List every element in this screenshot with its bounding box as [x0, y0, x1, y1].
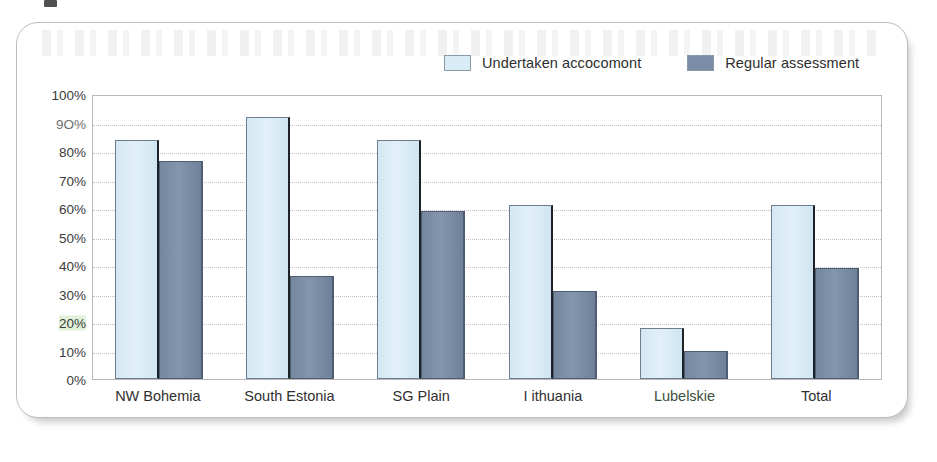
legend-label-series-2: Regular assessment	[725, 55, 859, 71]
bar-group	[618, 96, 749, 379]
x-axis-tick-label: NW Bohemia	[92, 388, 224, 410]
bar-series-2	[290, 276, 334, 379]
bar-group	[224, 96, 355, 379]
y-axis-tick-label: 100%	[51, 88, 86, 103]
bar-series-1	[246, 117, 290, 379]
y-axis-tick-label: 0%	[66, 373, 86, 388]
bar-series-1	[509, 205, 553, 379]
y-axis-tick-label: 80%	[59, 145, 86, 160]
bar-series-1	[640, 328, 684, 379]
y-axis-tick-label: 60%	[59, 202, 86, 217]
legend-label-series-1: Undertaken accocomont	[482, 55, 641, 71]
x-axis-tick-label: SG Plain	[355, 388, 487, 410]
x-axis-tick-label: Lubelskie	[619, 388, 751, 410]
bar-group	[750, 96, 881, 379]
y-axis-tick-label: 9O%	[56, 116, 86, 131]
legend-item-regular-assessment: Regular assessment	[687, 55, 859, 71]
chart-page: Undertaken accocomont Regular assessment…	[0, 0, 937, 462]
bar-group	[356, 96, 487, 379]
bar-series-1	[771, 205, 815, 379]
legend-swatch-icon-light	[444, 55, 471, 71]
plot-area	[92, 95, 882, 380]
bar-series-2	[421, 211, 465, 379]
x-axis-tick-label: South Estonia	[224, 388, 356, 410]
y-axis-tick-label: 30%	[59, 287, 86, 302]
bar-series-2	[159, 161, 203, 379]
y-axis-tick-labels: 100%9O%80%70%60%50%40%30%20%10%0%	[30, 95, 86, 380]
x-axis-category-labels: NW BohemiaSouth EstoniaSG PlainI ithuani…	[92, 388, 882, 410]
chart-legend: Undertaken accocomont Regular assessment	[444, 50, 894, 76]
legend-item-undertaken-assessment: Undertaken accocomont	[444, 55, 641, 71]
bar-group	[487, 96, 618, 379]
y-axis-tick-label: 50%	[59, 230, 86, 245]
bar-series-2	[815, 268, 859, 379]
bar-groups	[93, 96, 881, 379]
x-axis-tick-label: I ithuania	[487, 388, 619, 410]
bar-series-2	[684, 351, 728, 380]
bar-series-2	[553, 291, 597, 379]
bar-series-1	[115, 140, 159, 379]
legend-swatch-icon-dark	[687, 55, 714, 71]
y-axis-tick-label: 40%	[59, 259, 86, 274]
caption-fragment	[44, 0, 57, 7]
y-axis-tick-label: 70%	[59, 173, 86, 188]
x-axis-tick-label: Total	[750, 388, 882, 410]
bar-series-1	[377, 140, 421, 379]
y-axis-tick-label: 10%	[59, 344, 86, 359]
y-axis-tick-label: 20%	[59, 316, 86, 331]
bar-group	[93, 96, 224, 379]
